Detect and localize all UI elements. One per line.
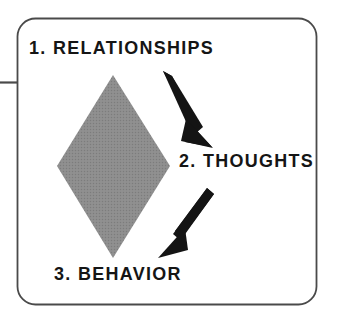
diagram-figure: 1. RELATIONSHIPS 2. THOUGHTS 3. BEHAVIOR [0, 0, 338, 322]
arrow-thoughts-to-behavior [158, 188, 214, 258]
node-label-behavior: 3. BEHAVIOR [54, 265, 182, 284]
node-label-relationships: 1. RELATIONSHIPS [29, 39, 214, 58]
arrow-relationships-to-thoughts [163, 71, 213, 148]
node-label-thoughts: 2. THOUGHTS [179, 152, 314, 171]
gray-diamond [57, 75, 170, 258]
